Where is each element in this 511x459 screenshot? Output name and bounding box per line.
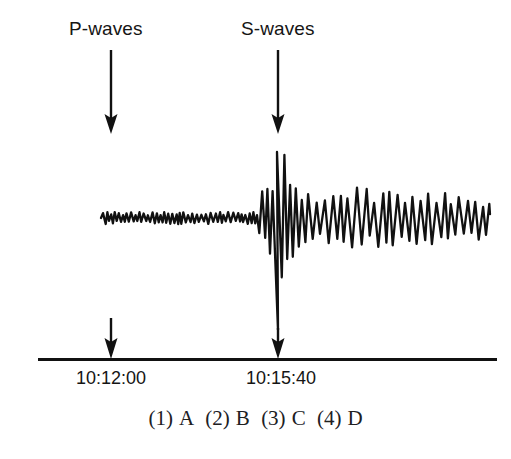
choice-3-letter[interactable]: C (292, 406, 306, 430)
p-waves-arrow-upper (105, 50, 118, 134)
s-waves-arrow-upper (272, 50, 285, 134)
seismogram-trace (101, 152, 490, 330)
answer-choices: (1)A (2)B (3)C (4)D (0, 406, 511, 431)
choice-3-number[interactable]: (3) (261, 406, 286, 430)
choice-1-letter[interactable]: A (179, 406, 194, 430)
choice-2-letter[interactable]: B (236, 406, 250, 430)
choice-2-number[interactable]: (2) (205, 406, 230, 430)
seismogram-svg (0, 0, 511, 459)
p-waves-arrow-axis (105, 318, 118, 359)
choice-1-number[interactable]: (1) (148, 406, 173, 430)
choice-4-letter[interactable]: D (347, 406, 362, 430)
s-waves-arrow-axis (272, 328, 285, 359)
choice-4-number[interactable]: (4) (317, 406, 342, 430)
